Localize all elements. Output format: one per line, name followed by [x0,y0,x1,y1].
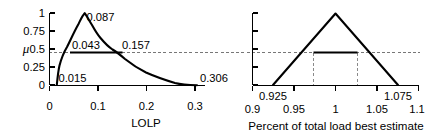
left-annotation-support-left: 0.015 [59,72,87,84]
right-membership-triangle [273,14,398,86]
right-chart: 0.925 1.075 0.9 0.95 1 1.05 1.1 Percent … [245,13,425,132]
left-y-axis-label-mu: μ [22,41,30,56]
left-annotation-cut-right: 0.157 [122,39,150,51]
left-annotation-support-right: 0.306 [200,72,228,84]
right-x-ticklabel-100: 1 [332,103,338,115]
right-x-ticklabel-090: 0.9 [245,103,261,115]
figure-container: 1 0.75 0.5 0.25 0 μ 0 0.1 0.2 0.3 0. [0,0,425,138]
left-y-ticklabel-05: 0.5 [29,43,45,55]
left-x-ticklabel-02: 0.2 [139,100,155,112]
left-x-ticklabel-03: 0.3 [187,100,203,112]
right-x-axis-title: Percent of total load best estimate [248,119,423,132]
right-annotation-support-right: 1.075 [384,90,412,102]
right-x-ticklabel-105: 1.05 [366,103,388,115]
left-y-ticklabel-0: 0 [39,79,45,91]
left-annotation-cut-left: 0.043 [72,39,100,51]
left-x-ticklabel-0: 0 [46,100,52,112]
right-x-ticklabel-110: 1.1 [409,103,425,115]
left-y-ticklabel-025: 0.25 [23,61,45,73]
left-y-ticklabel-075: 0.75 [23,25,45,37]
left-y-ticklabel-1: 1 [39,7,45,19]
left-x-ticklabel-01: 0.1 [90,100,106,112]
left-chart: 1 0.75 0.5 0.25 0 μ 0 0.1 0.2 0.3 0. [22,7,265,129]
left-annotation-peak: 0.087 [87,11,115,23]
figure-svg: 1 0.75 0.5 0.25 0 μ 0 0.1 0.2 0.3 0. [0,0,425,138]
right-x-ticklabel-095: 0.95 [283,103,305,115]
right-annotation-support-left: 0.925 [259,90,287,102]
left-x-axis-title: LOLP [131,116,161,129]
